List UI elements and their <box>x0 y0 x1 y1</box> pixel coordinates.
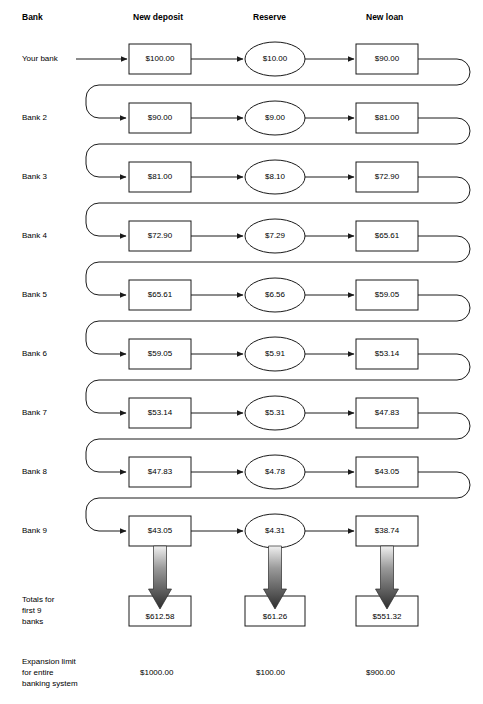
new-loan-value-1: $90.00 <box>356 54 418 63</box>
row-label-bank-3: Bank 3 <box>22 172 132 183</box>
new-deposit-value-6: $59.05 <box>129 349 191 358</box>
totals-label-line2: first 9 <box>22 606 132 617</box>
expansion-value-reserve: $100.00 <box>256 668 285 677</box>
row-label-bank-9: Bank 9 <box>22 526 132 537</box>
reserve-value-4: $7.29 <box>244 231 306 240</box>
new-loan-value-5: $59.05 <box>356 290 418 299</box>
row-label-bank-1: Your bank <box>22 54 132 65</box>
new-deposit-value-2: $90.00 <box>129 113 191 122</box>
totals-arrow-new-deposit <box>149 546 172 609</box>
new-loan-value-7: $47.83 <box>356 408 418 417</box>
new-loan-value-9: $38.74 <box>356 526 418 535</box>
reserve-value-3: $8.10 <box>244 172 306 181</box>
totals-arrow-reserve <box>264 546 287 609</box>
new-deposit-value-7: $53.14 <box>129 408 191 417</box>
totals-label-line1: Totals for <box>22 595 132 606</box>
expansion-label-line2: for entire <box>22 668 142 679</box>
totals-value-new-deposit: $612.58 <box>129 612 191 621</box>
expansion-value-new-deposit: $1000.00 <box>140 668 173 677</box>
totals-arrow-new-loan <box>376 546 399 609</box>
row-label-bank-6: Bank 6 <box>22 349 132 360</box>
new-loan-value-4: $65.61 <box>356 231 418 240</box>
money-multiplier-diagram: Bank New deposit Reserve New loan Your b… <box>0 0 483 704</box>
expansion-label-line1: Expansion limit <box>22 657 142 668</box>
row-label-bank-7: Bank 7 <box>22 408 132 419</box>
column-header-bank: Bank <box>22 12 43 22</box>
reserve-value-7: $5.31 <box>244 408 306 417</box>
column-header-new-deposit: New deposit <box>133 12 183 22</box>
new-loan-value-8: $43.05 <box>356 467 418 476</box>
row-label-bank-4: Bank 4 <box>22 231 132 242</box>
new-deposit-value-8: $47.83 <box>129 467 191 476</box>
column-header-new-loan: New loan <box>366 12 403 22</box>
row-label-bank-2: Bank 2 <box>22 113 132 124</box>
reserve-value-9: $4.31 <box>244 526 306 535</box>
new-loan-value-2: $81.00 <box>356 113 418 122</box>
new-deposit-value-1: $100.00 <box>129 54 191 63</box>
new-deposit-value-4: $72.90 <box>129 231 191 240</box>
reserve-value-1: $10.00 <box>244 54 306 63</box>
new-loan-value-6: $53.14 <box>356 349 418 358</box>
row-label-bank-8: Bank 8 <box>22 467 132 478</box>
new-deposit-value-5: $65.61 <box>129 290 191 299</box>
totals-value-reserve: $61.26 <box>245 612 305 621</box>
expansion-label-line3: banking system <box>22 679 142 690</box>
expansion-value-new-loan: $900.00 <box>366 668 395 677</box>
reserve-value-5: $6.56 <box>244 290 306 299</box>
reserve-value-6: $5.91 <box>244 349 306 358</box>
totals-label-line3: banks <box>22 617 132 628</box>
reserve-value-8: $4.78 <box>244 467 306 476</box>
new-deposit-value-3: $81.00 <box>129 172 191 181</box>
new-loan-value-3: $72.90 <box>356 172 418 181</box>
reserve-value-2: $9.00 <box>244 113 306 122</box>
new-deposit-value-9: $43.05 <box>129 526 191 535</box>
column-header-reserve: Reserve <box>253 12 286 22</box>
totals-value-new-loan: $551.32 <box>356 612 418 621</box>
row-label-bank-5: Bank 5 <box>22 290 132 301</box>
